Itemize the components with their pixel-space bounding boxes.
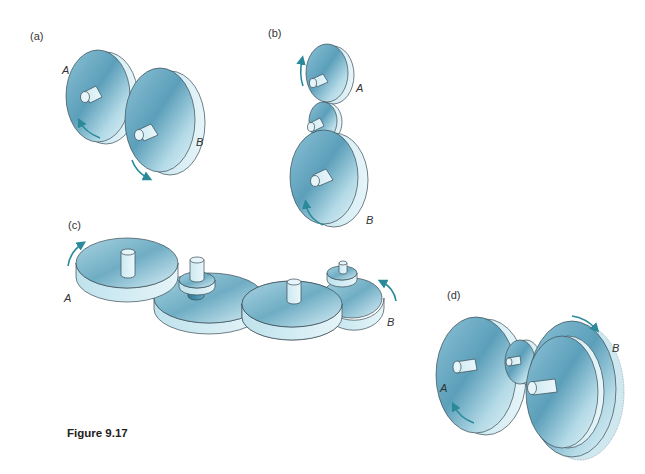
- figure-caption: Figure 9.17: [67, 427, 128, 439]
- shaft-b-panel-d: [528, 379, 558, 395]
- panel-a-label: (a): [30, 30, 43, 42]
- gear-a-label-panel-c: A: [63, 292, 71, 304]
- rotation-arrow-a-panel-b: [301, 60, 303, 86]
- panel-d-label: (d): [447, 289, 460, 301]
- gear-a-label-panel-d: A: [439, 382, 447, 394]
- gear-b-label-panel-d: B: [612, 342, 619, 354]
- panel-c: (c): [63, 219, 396, 340]
- gear-b-label-panel-a: B: [196, 136, 203, 148]
- gear-b-panel-b: [290, 130, 368, 227]
- pinion-1-panel-c: [179, 257, 215, 295]
- gear-train-diagram: (a) A B (b): [0, 0, 645, 474]
- pinion-2-panel-c: [327, 261, 357, 287]
- gear-b-panel-a: [125, 68, 205, 175]
- panel-d: (d) A B: [436, 289, 624, 460]
- gear-b-panel-d: [526, 321, 624, 460]
- gear-a-panel-b: [306, 44, 354, 104]
- panel-a: (a) A B: [30, 30, 205, 178]
- gear-a-label-panel-a: A: [61, 64, 69, 76]
- gear-a-panel-c: [76, 238, 178, 302]
- figure-9-17: (a) A B (b): [0, 0, 645, 474]
- panel-b: (b) A B: [268, 27, 373, 227]
- compound-gear-2-top-panel-c: [242, 279, 342, 340]
- panel-b-label: (b): [268, 27, 281, 39]
- gear-b-label-panel-c: B: [387, 316, 394, 328]
- gear-b-label-panel-b: B: [366, 214, 373, 226]
- gear-a-label-panel-b: A: [355, 82, 363, 94]
- panel-c-label: (c): [68, 219, 81, 231]
- shaft-a-panel-c: [121, 249, 135, 278]
